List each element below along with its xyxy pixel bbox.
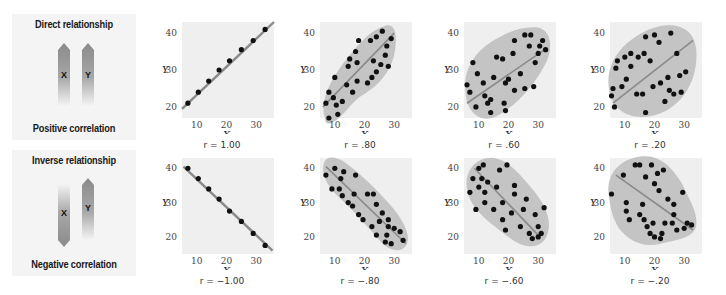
y-tick-label: 20 [166,232,178,242]
arrow-y-label: Y [82,70,94,80]
x-axis-label: X [650,129,659,134]
data-point [518,224,523,229]
scatter-panel: 403020Y102030X [290,150,430,270]
data-point [206,186,211,191]
data-point [332,166,337,171]
x-tick-label: 10 [191,256,203,266]
y-tick-label: 40 [304,28,316,38]
data-point [533,212,538,217]
data-point [473,104,478,109]
data-point [648,231,653,236]
data-point [329,186,334,191]
arrow-x-label: X [58,208,70,218]
data-point [502,101,507,106]
data-point [679,90,684,95]
data-point [476,166,481,171]
data-point [531,84,536,89]
x-tick-label: 10 [619,120,631,130]
x-tick-label: 30 [388,256,400,266]
data-point [650,84,655,89]
y-tick-label: 20 [448,102,460,112]
data-point [500,200,505,205]
data-point [680,190,685,195]
x-tick-label: 30 [532,120,544,130]
data-point [656,188,661,193]
data-point [643,34,648,39]
data-point [346,64,351,69]
data-point [640,91,645,96]
data-point [524,197,529,202]
data-point [628,64,633,69]
data-point [494,185,499,190]
data-point [374,34,379,39]
correlation-label: r = −.80 [295,276,425,286]
data-point [521,207,526,212]
data-point [239,47,244,52]
data-point [398,229,403,234]
data-point [662,221,667,226]
data-point [371,191,376,196]
x-tick-label: 10 [329,120,341,130]
data-point [627,217,632,222]
row-label-inverse: Inverse relationship X Y Negative correl… [12,150,136,276]
x-axis-label: X [222,129,231,134]
data-point [652,181,657,186]
data-point [671,212,676,217]
row-title: Inverse relationship [19,154,128,166]
data-point [239,219,244,224]
data-point [624,77,629,82]
data-point [488,97,493,102]
data-point [386,64,391,69]
data-point [518,71,523,76]
data-point [615,58,620,63]
data-point [636,55,641,60]
data-point [624,200,629,205]
data-point [677,73,682,78]
data-point [609,191,614,196]
data-point [340,193,345,198]
data-point [642,217,647,222]
data-point [650,221,655,226]
x-axis-label: X [360,265,369,270]
data-point [251,38,256,43]
data-point [473,207,478,212]
data-point [467,90,472,95]
data-point [645,224,650,229]
data-point [365,80,370,85]
data-point [536,51,541,56]
data-point [609,93,614,98]
data-point [671,91,676,96]
data-point [543,47,548,52]
data-point [337,186,342,191]
data-point [665,197,670,202]
correlation-label: r = .20 [585,140,715,150]
data-point [217,197,222,202]
data-point [347,56,352,61]
data-point [482,190,487,195]
data-point [346,200,351,205]
data-point [368,38,373,43]
scatter-panel: 403020Y102030X [290,14,430,134]
data-point [542,205,547,210]
data-point [500,56,505,61]
data-point [355,60,360,65]
data-point [384,43,389,48]
data-point [251,231,256,236]
data-point [470,176,475,181]
data-point [503,227,508,232]
x-tick-label: 10 [329,256,341,266]
data-point [353,173,358,178]
x-tick-label: 30 [388,120,400,130]
x-tick-label: 30 [250,256,262,266]
data-point [634,91,639,96]
data-point [540,38,545,43]
data-point [386,217,391,222]
data-point [263,243,268,248]
data-point [512,38,517,43]
data-point [360,217,365,222]
row-subtitle: Positive correlation [19,122,128,134]
data-point [503,108,508,113]
x-tick-label: 30 [678,256,690,266]
data-point [380,210,385,215]
data-point [674,51,679,56]
